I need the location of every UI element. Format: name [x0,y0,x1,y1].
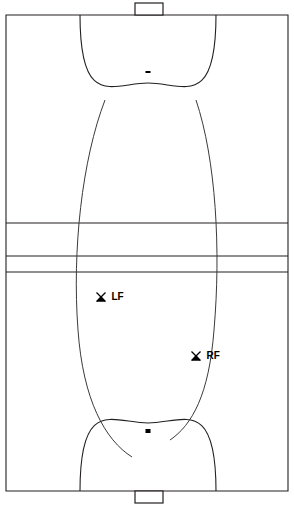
left-forward-label: LF [112,291,124,302]
court-outline [6,15,288,491]
court-canvas: LF RF [0,0,294,509]
right-forward-label: RF [207,350,220,361]
top-goal [135,3,163,15]
right-wing-run-path [170,100,217,440]
left-wing-run-path [76,100,132,457]
left-forward-marker[interactable]: LF [97,291,124,302]
court-diagram: LF RF [0,0,294,509]
left-forward-triangle-icon [97,296,106,302]
top-penalty-mark [146,71,151,73]
right-forward-triangle-icon [192,355,201,361]
right-forward-marker[interactable]: RF [192,350,220,361]
top-goal-area-arc [80,15,216,87]
bottom-goal [135,491,163,503]
bottom-penalty-mark [146,429,151,433]
